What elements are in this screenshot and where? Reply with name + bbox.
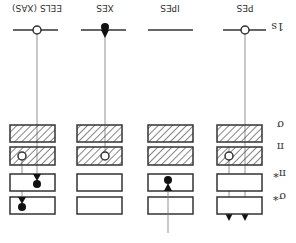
column-xes [77, 23, 126, 214]
arrow-down-icon [101, 30, 109, 38]
pi-box [217, 147, 262, 165]
pi-box [148, 147, 193, 165]
sigma-box [77, 125, 122, 142]
electron-icon [101, 23, 109, 31]
column-header-ipes: IPES [160, 3, 180, 13]
pi-star-box [10, 174, 55, 191]
label-sigma-star: σ* [272, 190, 286, 203]
hole-icon [241, 26, 249, 34]
sigma-star-box [148, 197, 193, 214]
sigma-box [10, 125, 55, 142]
spectroscopy-diagram: 1s σ π π* σ* PES IPES XES EELS (XAS) [0, 0, 296, 243]
pi-star-box [77, 174, 122, 191]
sigma-star-box [217, 197, 262, 214]
pi-box [77, 147, 122, 165]
hole-icon [101, 152, 109, 160]
sigma-star-box [10, 197, 55, 214]
label-sigma: σ [276, 118, 284, 131]
sigma-box [217, 125, 262, 142]
hole-icon [18, 152, 26, 160]
electron-icon [164, 176, 172, 184]
electron-icon [33, 180, 41, 188]
label-pi-star: π* [273, 167, 286, 180]
label-core: 1s [271, 20, 284, 33]
hole-icon [33, 26, 41, 34]
row-labels: 1s σ π π* σ* [271, 20, 286, 203]
label-pi: π [277, 140, 284, 153]
column-pes [217, 26, 266, 221]
electron-icon [18, 203, 26, 211]
column-header-pes: PES [236, 3, 253, 13]
column-header-xes: XES [96, 3, 114, 13]
column-eels [10, 26, 58, 214]
column-ipes [148, 30, 193, 233]
pi-box [10, 147, 55, 165]
pi-star-box [217, 174, 262, 191]
sigma-star-box [77, 197, 122, 214]
hole-icon [225, 152, 233, 160]
column-header-eels: EELS (XAS) [12, 3, 62, 13]
sigma-box [148, 125, 193, 142]
